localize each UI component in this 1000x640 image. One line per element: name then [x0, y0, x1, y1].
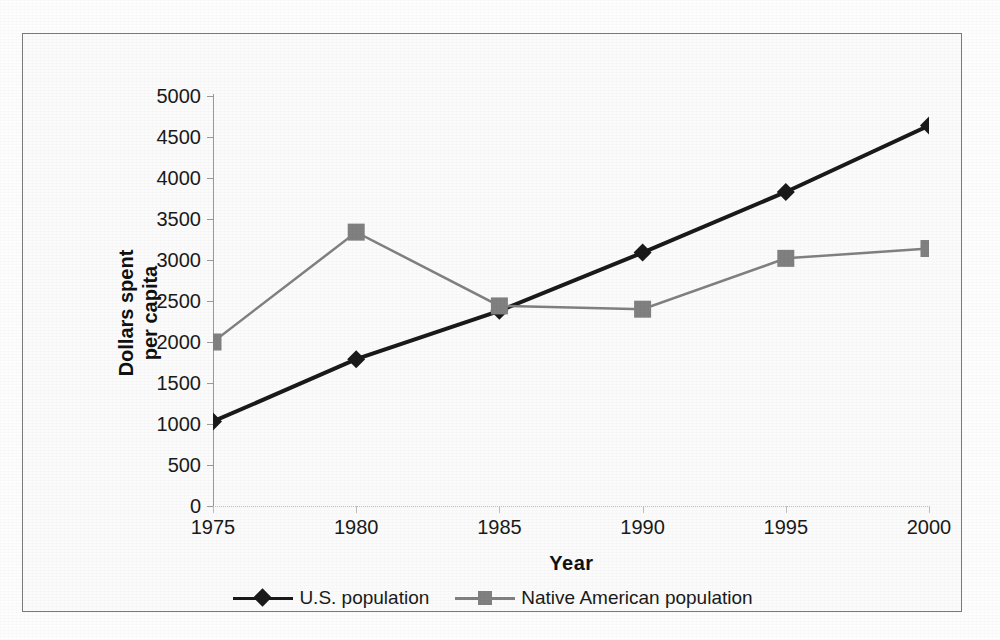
x-tick-mark: [356, 506, 357, 513]
data-point-marker: [777, 183, 795, 201]
y-axis-title-line2: per capita: [139, 266, 161, 360]
data-point-marker: [634, 301, 651, 318]
data-point-marker: [920, 117, 929, 135]
x-tick-label: 2000: [884, 516, 974, 539]
x-tick-mark: [499, 506, 500, 513]
series-line-us: [213, 126, 929, 422]
x-tick-mark: [213, 506, 214, 513]
diamond-marker-icon: [254, 588, 272, 606]
data-point-marker: [213, 413, 222, 431]
x-axis-line: [213, 506, 930, 508]
y-tick-label: 5000: [137, 86, 201, 106]
legend-label: Native American population: [521, 587, 752, 609]
x-axis-title: Year: [213, 552, 930, 575]
legend-label: U.S. population: [299, 587, 429, 609]
y-tick-label: 4500: [137, 127, 201, 147]
y-axis-title: Dollars spent per capita: [114, 163, 162, 463]
y-axis-title-line1: Dollars spent: [115, 250, 137, 377]
chart-frame: 0500100015002000250030003500400045005000…: [22, 33, 962, 612]
legend-entry[interactable]: Native American population: [455, 587, 752, 609]
legend-swatch: [233, 589, 293, 607]
data-point-marker: [348, 224, 365, 241]
data-point-marker: [491, 297, 508, 314]
x-tick-label: 1990: [598, 516, 688, 539]
x-tick-mark: [929, 506, 930, 513]
x-tick-mark: [643, 506, 644, 513]
x-tick-label: 1975: [168, 516, 258, 539]
data-point-marker: [213, 334, 222, 351]
data-point-marker: [347, 350, 365, 368]
chart-legend: U.S. populationNative American populatio…: [23, 587, 963, 609]
x-tick-label: 1985: [454, 516, 544, 539]
data-point-marker: [921, 240, 930, 257]
chart-page: 0500100015002000250030003500400045005000…: [0, 0, 1000, 640]
x-tick-label: 1995: [741, 516, 831, 539]
series-line-native: [213, 232, 929, 342]
y-tick-label: 0: [137, 496, 201, 516]
x-tick-mark: [786, 506, 787, 513]
plot-area: [213, 96, 929, 506]
legend-entry[interactable]: U.S. population: [233, 587, 429, 609]
data-point-marker: [777, 250, 794, 267]
square-marker-icon: [478, 591, 492, 605]
legend-swatch: [455, 589, 515, 607]
series-lines: [213, 96, 929, 506]
x-tick-label: 1980: [311, 516, 401, 539]
data-point-marker: [634, 244, 652, 262]
